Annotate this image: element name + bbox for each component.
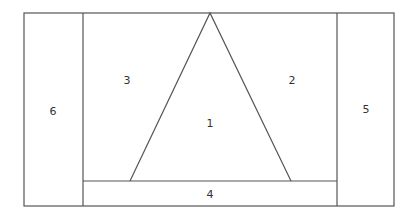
region-label-1: 1 [207,117,214,130]
region-label-5: 5 [363,103,370,116]
triangle-outline [130,13,291,181]
outer-frame [24,13,394,206]
region-label-4: 4 [207,188,214,201]
region-label-3: 3 [124,74,131,87]
region-label-6: 6 [50,105,57,118]
region-diagram: 1 2 3 4 5 6 [0,0,416,216]
region-label-2: 2 [289,74,296,87]
